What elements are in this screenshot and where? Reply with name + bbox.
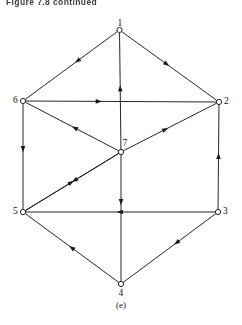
node-label-7: 7 [123,139,128,149]
graph-edge-7-to-2 [123,103,216,151]
arrowhead-7-to-2 [162,128,169,133]
node-label-1: 1 [118,19,123,29]
arrowhead-6-to-5 [21,146,26,152]
graph-node-6[interactable] [20,98,25,103]
node-label-2: 2 [224,97,229,107]
node-label-5: 5 [13,207,18,217]
arrowhead-4-to-5 [69,246,75,252]
figure-area: 1234567 [0,0,242,325]
graph-node-3[interactable] [215,209,220,214]
arrowhead-1-to-6 [75,57,81,63]
arrowhead-6-to-2 [96,99,102,104]
graph-edge-1-to-6 [25,32,117,100]
graph-node-5[interactable] [20,209,25,214]
node-label-6: 6 [13,96,18,106]
arrowhead-7-to-4 [119,199,124,205]
arrowhead-3-to-2 [216,153,221,159]
node-label-4: 4 [119,289,124,299]
graph-node-1[interactable] [117,27,122,32]
graph-edge-6-to-2 [26,101,217,102]
arrowhead-3-to-5 [117,210,123,215]
node-label-3: 3 [223,207,228,217]
figure-caption: (e) [0,300,242,310]
graph-edge-3-to-4 [123,214,216,283]
graph-node-7[interactable] [118,149,123,154]
directed-graph [0,0,242,325]
arrowhead-7-to-1 [118,85,123,91]
graph-node-2[interactable] [216,99,221,104]
arrowhead-3-to-4 [174,239,180,245]
arrowhead-1-to-2 [163,61,169,66]
arrowhead-7-to-6 [72,127,79,132]
edge-layer [21,32,221,283]
arrowhead-7-to-5 [72,177,78,182]
graph-node-4[interactable] [118,281,123,286]
